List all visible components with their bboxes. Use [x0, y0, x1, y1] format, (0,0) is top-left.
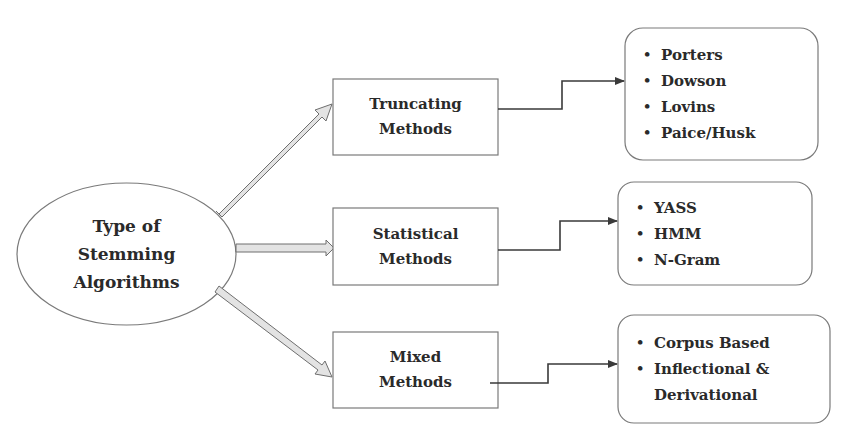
list-item-text: YASS — [654, 195, 697, 221]
list-item-text: Porters — [661, 42, 723, 68]
root-label-line-2: Stemming — [73, 240, 179, 268]
connector-mixed — [490, 364, 617, 383]
bullet-icon: • — [625, 94, 661, 120]
bullet-icon: • — [618, 221, 654, 247]
mixed-label-line-2: Methods — [379, 370, 452, 395]
list-item-text: N-Gram — [654, 247, 720, 273]
bullet-icon: • — [618, 330, 654, 356]
statistical-methods-node: Statistical Methods — [333, 208, 498, 285]
truncating-methods-node: Truncating Methods — [333, 79, 498, 155]
bullet-icon: • — [625, 68, 661, 94]
list-item: •YASS — [618, 195, 812, 221]
bullet-icon: • — [625, 42, 661, 68]
list-item: •HMM — [618, 221, 812, 247]
list-item: •N-Gram — [618, 247, 812, 273]
bullet-icon: • — [618, 195, 654, 221]
list-item: •Lovins — [625, 94, 818, 120]
mixed-label-line-1: Mixed — [390, 345, 441, 370]
truncating-algorithms-list: •Porters •Dowson •Lovins •Paice/Husk — [625, 28, 818, 160]
truncating-label-line-1: Truncating — [369, 92, 462, 117]
list-item-text: Corpus Based — [654, 330, 770, 356]
statistical-algorithms-list: •YASS •HMM •N-Gram — [618, 182, 812, 285]
block-arrow-to-statistical — [236, 240, 334, 256]
list-item-text: Lovins — [661, 94, 715, 120]
list-item: •Inflectional & Derivational — [618, 356, 830, 408]
bullet-icon: • — [625, 120, 661, 146]
list-item-text: Paice/Husk — [661, 120, 755, 146]
list-item-text: Inflectional & Derivational — [654, 356, 769, 408]
connector-truncating — [498, 81, 624, 109]
statistical-label-line-2: Methods — [379, 247, 452, 272]
statistical-label-line-1: Statistical — [373, 222, 459, 247]
list-item: •Porters — [625, 42, 818, 68]
list-item-text: HMM — [654, 221, 701, 247]
truncating-label-line-2: Methods — [379, 117, 452, 142]
root-label-line-3: Algorithms — [73, 268, 179, 296]
list-item-text: Dowson — [661, 68, 726, 94]
list-item: •Corpus Based — [618, 330, 830, 356]
list-item: •Dowson — [625, 68, 818, 94]
mixed-methods-node: Mixed Methods — [333, 332, 498, 408]
connector-statistical — [498, 221, 617, 250]
list-item: •Paice/Husk — [625, 120, 818, 146]
bullet-icon: • — [618, 247, 654, 273]
root-label-line-1: Type of — [73, 212, 179, 240]
bullet-icon: • — [618, 356, 654, 382]
root-node-type-of-stemming-algorithms: Type of Stemming Algorithms — [17, 183, 236, 325]
mixed-algorithms-list: •Corpus Based •Inflectional & Derivation… — [618, 315, 830, 423]
